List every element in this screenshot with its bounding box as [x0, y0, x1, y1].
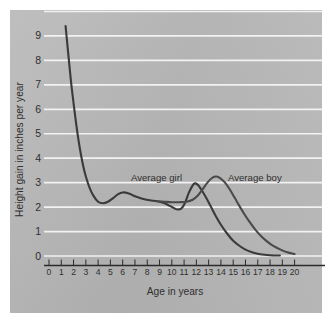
y-tick-label: 5 — [27, 128, 41, 138]
y-gridlines — [44, 12, 322, 257]
y-tick-label: 1 — [27, 226, 41, 236]
y-tick-label: 8 — [27, 55, 41, 65]
x-tick-marks — [49, 260, 295, 266]
y-tick-label: 4 — [27, 153, 41, 163]
y-tick-label: 7 — [27, 79, 41, 89]
curve-average-boy — [157, 177, 295, 255]
y-tick-label: 6 — [27, 104, 41, 114]
y-tick-label: 0 — [27, 251, 41, 261]
chart-figure: 0123456789 01234567891011121314151617181… — [0, 0, 331, 323]
x-tick-label: 20 — [288, 268, 302, 277]
x-axis-label: Age in years — [110, 286, 240, 297]
curve-label-average-girl: Average girl — [131, 172, 182, 183]
y-axis-label: Height gain in inches per year — [14, 70, 25, 230]
curve-label-average-boy: Average boy — [228, 172, 282, 183]
y-tick-label: 9 — [27, 30, 41, 40]
y-tick-label: 3 — [27, 177, 41, 187]
y-tick-label: 2 — [27, 202, 41, 212]
